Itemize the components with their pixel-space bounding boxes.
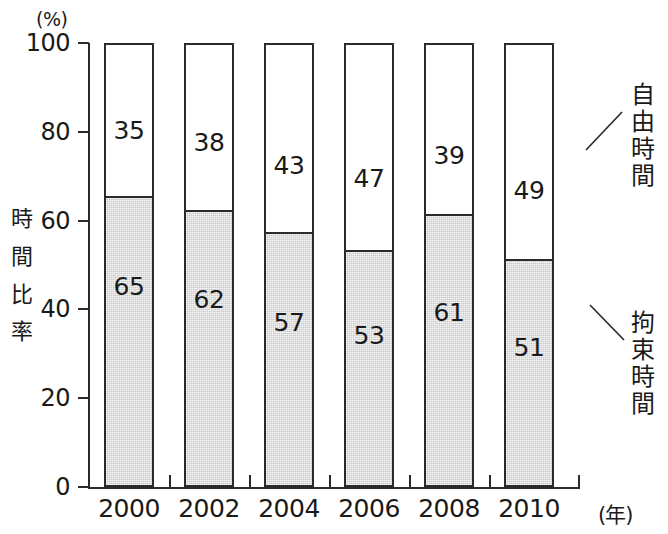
leader-line-bound-time <box>0 0 668 534</box>
annotation-bound-time-char: 時 <box>628 364 658 391</box>
annotation-free-time-char: 時 <box>628 136 658 163</box>
x-axis-tick-label: 2006 <box>324 496 414 521</box>
x-axis-tick-label: 2000 <box>84 496 174 521</box>
bar-value-label-free-time: 47 <box>344 166 394 191</box>
y-axis-tick-label: 80 <box>14 120 70 144</box>
bar-segment-bound-time[interactable] <box>266 232 312 485</box>
x-axis-tick <box>249 475 251 488</box>
x-axis-tick <box>169 475 171 488</box>
annotation-free-time-char: 自 <box>628 82 658 109</box>
bar-value-label-bound-time: 51 <box>504 335 554 360</box>
stacked-bar[interactable] <box>504 43 554 487</box>
annotation-bound-time-char: 間 <box>628 391 658 418</box>
annotation-free-time-char: 由 <box>628 109 658 136</box>
x-axis-tick <box>409 475 411 488</box>
x-axis-unit-label: (年) <box>598 498 632 528</box>
y-axis-line <box>88 43 90 488</box>
x-axis-tick-label: 2008 <box>404 496 494 521</box>
x-axis-tick-label: 2002 <box>164 496 254 521</box>
stacked-bar[interactable] <box>424 43 474 487</box>
bar-value-label-bound-time: 62 <box>184 287 234 312</box>
stacked-bar[interactable] <box>264 43 314 487</box>
bar-segment-bound-time[interactable] <box>506 259 552 485</box>
y-axis-tick-label: 0 <box>14 475 70 499</box>
y-axis-tick-label: 100 <box>14 31 70 55</box>
bar-value-label-bound-time: 65 <box>104 274 154 299</box>
x-axis-line <box>88 487 580 489</box>
bar-segment-bound-time[interactable] <box>186 210 232 485</box>
annotation-bound-time-char: 束 <box>628 337 658 364</box>
annotation-bound-time: 拘束時間 <box>628 310 658 418</box>
y-axis-tick <box>78 486 89 488</box>
y-axis-tick-label: 60 <box>14 209 70 233</box>
bar-value-label-bound-time: 57 <box>264 310 314 335</box>
bar-value-label-free-time: 49 <box>504 178 554 203</box>
stacked-bar[interactable] <box>104 43 154 487</box>
x-axis-tick-label: 2010 <box>484 496 574 521</box>
y-axis-tick <box>78 42 89 44</box>
bar-value-label-bound-time: 53 <box>344 323 394 348</box>
annotation-bound-time-char: 拘 <box>628 310 658 337</box>
bar-segment-bound-time[interactable] <box>346 250 392 485</box>
y-axis-tick-label: 40 <box>14 297 70 321</box>
y-axis-tick <box>78 220 89 222</box>
bar-segment-bound-time[interactable] <box>106 196 152 485</box>
x-axis-tick <box>329 475 331 488</box>
stacked-bar[interactable] <box>184 43 234 487</box>
annotation-free-time: 自由時間 <box>628 82 658 190</box>
x-axis-tick-label: 2004 <box>244 496 334 521</box>
leader-line-free-time <box>0 0 668 534</box>
y-axis-title-char: 間 <box>8 238 36 276</box>
y-axis-tick-label: 20 <box>14 386 70 410</box>
y-axis-unit-label: (%) <box>36 8 67 30</box>
y-axis-tick <box>78 131 89 133</box>
bar-value-label-free-time: 38 <box>184 130 234 155</box>
annotation-free-time-char: 間 <box>628 163 658 190</box>
y-axis-tick <box>78 397 89 399</box>
y-axis-tick <box>78 308 89 310</box>
bar-value-label-free-time: 43 <box>264 153 314 178</box>
bar-value-label-free-time: 35 <box>104 118 154 143</box>
bar-segment-bound-time[interactable] <box>426 214 472 485</box>
stacked-bar[interactable] <box>344 43 394 487</box>
x-axis-tick <box>578 475 580 488</box>
x-axis-tick <box>489 475 491 488</box>
bar-value-label-free-time: 39 <box>424 143 474 168</box>
stacked-bar-chart: (%) 時 間 比 率 100806040200 200020022004200… <box>0 0 668 534</box>
bar-value-label-bound-time: 61 <box>424 300 474 325</box>
